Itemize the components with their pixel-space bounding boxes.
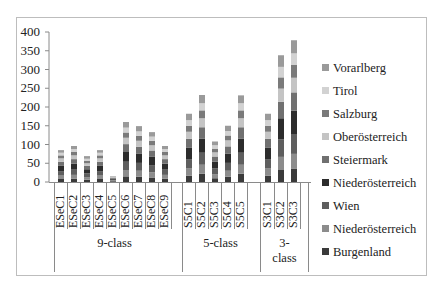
- bar-segment: [162, 164, 168, 170]
- bar-segment: [58, 155, 64, 158]
- bar-segment: [58, 166, 64, 171]
- bar-segment: [71, 146, 77, 149]
- bar-segment: [199, 139, 205, 153]
- bar-segment: [71, 152, 77, 155]
- bar-segment: [225, 154, 231, 163]
- y-tick-label: 200: [10, 100, 40, 114]
- bar-segment: [265, 169, 271, 176]
- bar-segment: [199, 153, 205, 165]
- bar-segment: [84, 161, 90, 163]
- bar-segment: [225, 171, 231, 177]
- group-label-5-class: 5-class: [183, 236, 258, 251]
- y-tick-label: 300: [10, 63, 40, 77]
- bar-segment: [291, 53, 297, 65]
- bar-segment: [162, 146, 168, 149]
- bar-S5C5: [238, 95, 244, 182]
- bar-segment: [278, 89, 284, 102]
- bar-segment: [225, 136, 231, 141]
- bar-ESeC4: [97, 150, 103, 182]
- bar-segment: [97, 153, 103, 156]
- bar-segment: [71, 175, 77, 179]
- bar-ESeC6: [123, 122, 129, 182]
- bar-segment: [186, 139, 192, 148]
- bar-segment: [199, 95, 205, 103]
- bar-segment: [238, 165, 244, 174]
- bar-segment: [136, 171, 142, 177]
- bar-segment: [123, 176, 129, 182]
- bar-segment: [186, 126, 192, 132]
- y-tick-label: 400: [10, 25, 40, 39]
- x-tick-label: S5C5: [235, 201, 246, 228]
- bar-segment: [162, 179, 168, 182]
- bar-segment: [123, 122, 129, 128]
- group-label-9-class: 9-class: [52, 236, 177, 251]
- bar-segment: [199, 127, 205, 138]
- bar-segment: [149, 178, 155, 183]
- legend-item: Steiermark: [322, 153, 388, 167]
- bar-segment: [199, 174, 205, 182]
- legend-label: Vorarlberg: [333, 61, 386, 75]
- bar-segment: [212, 157, 218, 162]
- bar-segment: [186, 159, 192, 168]
- bar-segment: [149, 145, 155, 150]
- bar-segment: [123, 144, 129, 152]
- bar-segment: [71, 164, 77, 170]
- bar-segment: [58, 153, 64, 156]
- bar-ESeC1: [58, 150, 64, 182]
- bar-segment: [186, 169, 192, 176]
- bar-segment: [278, 55, 284, 67]
- bar-segment: [58, 162, 64, 166]
- bar-segment: [225, 163, 231, 171]
- bar-segment: [265, 159, 271, 168]
- bar-segment: [58, 176, 64, 179]
- legend-swatch-icon: [322, 225, 329, 232]
- bar-segment: [110, 178, 116, 179]
- bar-segment: [212, 149, 218, 153]
- bar-segment: [199, 103, 205, 110]
- bar-segment: [278, 170, 284, 182]
- bar-segment: [123, 133, 129, 138]
- bar-segment: [225, 126, 231, 131]
- bar-S3C1: [265, 114, 271, 182]
- bar-segment: [110, 181, 116, 182]
- bar-segment: [136, 136, 142, 141]
- legend-item: Burgenland: [322, 245, 391, 259]
- group-label-3-class-line1: 3-: [262, 236, 307, 251]
- bar-segment: [265, 132, 271, 139]
- bar-segment: [136, 131, 142, 136]
- legend-swatch-icon: [322, 179, 329, 186]
- legend-label: Oberösterreich: [333, 130, 407, 144]
- bar-segment: [278, 139, 284, 157]
- x-tick-label: ESeC4: [94, 195, 105, 228]
- bar-segment: [97, 179, 103, 182]
- x-tick-label: S3C3: [288, 201, 299, 228]
- legend-label: Tirol: [333, 84, 358, 98]
- bar-segment: [238, 103, 244, 110]
- bar-segment: [162, 149, 168, 152]
- bar-segment: [291, 40, 297, 53]
- bar-segment: [162, 175, 168, 179]
- bar-segment: [265, 126, 271, 132]
- bar-segment: [136, 154, 142, 163]
- bar-segment: [58, 179, 64, 182]
- bar-S5C2: [199, 95, 205, 182]
- bar-segment: [291, 134, 297, 154]
- bar-segment: [149, 172, 155, 177]
- bar-S5C4: [225, 126, 231, 182]
- legend-item: Niederösterreich: [322, 222, 416, 236]
- bar-segment: [123, 162, 129, 170]
- bar-segment: [149, 157, 155, 165]
- bar-segment: [291, 78, 297, 93]
- bar-segment: [278, 102, 284, 119]
- bar-segment: [225, 146, 231, 153]
- bar-segment: [97, 158, 103, 161]
- bar-segment: [71, 179, 77, 182]
- x-tick-label: ESeC3: [81, 195, 92, 228]
- x-tick-label: S5C3: [209, 201, 220, 228]
- bar-ESeC2: [71, 146, 77, 182]
- bar-segment: [291, 65, 297, 78]
- y-axis-ticks: [45, 32, 49, 182]
- bar-segment: [238, 139, 244, 153]
- bar-segment: [186, 148, 192, 159]
- y-tick-label: 50: [10, 156, 40, 170]
